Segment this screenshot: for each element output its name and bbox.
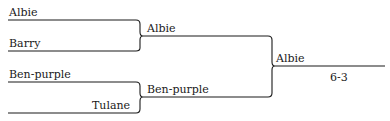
round1-team-1: Albie (9, 7, 38, 19)
final-winner: Albie (276, 53, 305, 65)
final-score: 6-3 (330, 72, 348, 84)
round1-team-4: Tulane (92, 100, 130, 112)
bracket-lines (0, 0, 390, 121)
round1-team-3: Ben-purple (9, 69, 71, 81)
round1-team-2: Barry (9, 38, 40, 50)
round2-team-1: Albie (147, 23, 176, 35)
round2-team-2: Ben-purple (147, 84, 209, 96)
